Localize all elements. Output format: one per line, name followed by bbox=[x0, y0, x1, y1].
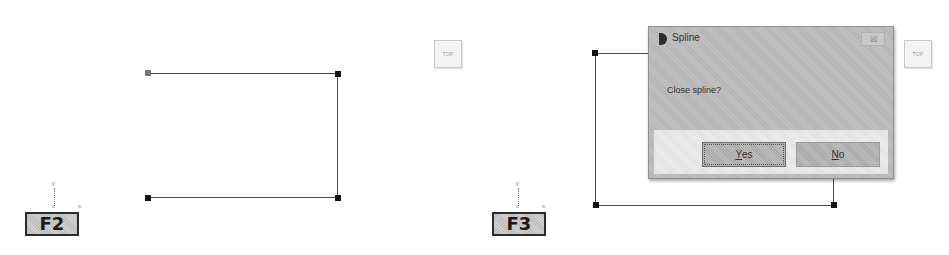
spline-segment-bottom bbox=[148, 197, 338, 198]
yes-accelerator: Y bbox=[735, 149, 742, 160]
sketch-viewport-f3[interactable]: TOP y z x F3 Spline ☒ Close spline? Yes … bbox=[480, 0, 949, 255]
yes-label-rest: es bbox=[742, 149, 753, 160]
axis-triad: y z x bbox=[506, 180, 556, 210]
axis-triad: y z x bbox=[42, 180, 92, 210]
spline-segment-left bbox=[595, 54, 596, 205]
dialog-title: Spline bbox=[672, 32, 700, 43]
step-label-text: F3 bbox=[507, 215, 532, 233]
view-cube-top[interactable]: TOP bbox=[904, 40, 932, 68]
axis-z-label: z bbox=[52, 203, 55, 209]
view-cube-label: TOP bbox=[913, 51, 924, 57]
close-spline-dialog: Spline ☒ Close spline? Yes No bbox=[648, 26, 894, 179]
spline-segment-right bbox=[833, 178, 834, 205]
dialog-message: Close spline? bbox=[667, 85, 721, 95]
spline-start-point[interactable] bbox=[592, 50, 598, 56]
spline-control-point[interactable] bbox=[593, 202, 599, 208]
view-cube-label: TOP bbox=[443, 51, 454, 57]
view-cube-top[interactable]: TOP bbox=[434, 40, 462, 68]
spline-end-point[interactable] bbox=[831, 202, 837, 208]
spline-segment-bottom bbox=[596, 205, 834, 206]
no-accelerator: N bbox=[832, 149, 839, 160]
step-label-f2: F2 bbox=[25, 212, 79, 236]
spline-control-point[interactable] bbox=[335, 195, 341, 201]
axis-y-label: y bbox=[52, 180, 55, 186]
no-button[interactable]: No bbox=[796, 142, 880, 167]
spline-end-point[interactable] bbox=[145, 195, 151, 201]
axis-x-label: x bbox=[542, 203, 545, 209]
dialog-titlebar[interactable]: Spline ☒ bbox=[649, 27, 893, 51]
close-icon: ☒ bbox=[870, 35, 877, 44]
sketch-viewport-f2[interactable]: TOP y z x F2 bbox=[0, 0, 480, 255]
no-label-rest: o bbox=[839, 149, 845, 160]
dialog-button-panel: Yes No bbox=[654, 130, 888, 174]
spline-start-point[interactable] bbox=[145, 70, 151, 76]
spline-segment-top bbox=[596, 53, 656, 54]
spline-segment-top bbox=[148, 73, 338, 74]
axis-z-label: z bbox=[516, 203, 519, 209]
axis-x-label: x bbox=[78, 203, 81, 209]
step-label-text: F2 bbox=[40, 215, 65, 233]
step-label-f3: F3 bbox=[492, 212, 546, 236]
axis-y-label: y bbox=[516, 180, 519, 186]
app-logo-icon bbox=[659, 33, 667, 45]
spline-segment-right bbox=[337, 75, 338, 198]
yes-button[interactable]: Yes bbox=[702, 142, 786, 167]
dialog-close-button[interactable]: ☒ bbox=[861, 32, 885, 46]
spline-control-point[interactable] bbox=[335, 71, 341, 77]
